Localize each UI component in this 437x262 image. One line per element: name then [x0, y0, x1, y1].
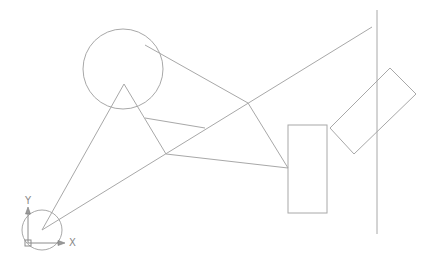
drawing-canvas[interactable]: Y X	[0, 0, 437, 262]
long-diagonal-line[interactable]	[42, 27, 372, 230]
rotated-rectangle[interactable]	[330, 68, 416, 154]
short-connector-line[interactable]	[145, 118, 205, 128]
triangle-right-edge[interactable]	[124, 84, 166, 154]
drawing-geometry[interactable]	[22, 10, 416, 250]
ucs-y-arrow-icon	[26, 207, 31, 214]
tangent-line[interactable]	[145, 45, 248, 103]
vertex-to-rectangle-line[interactable]	[248, 103, 288, 168]
ucs-x-arrow-icon	[58, 241, 65, 246]
large-circle[interactable]	[83, 29, 163, 109]
lower-connector-line[interactable]	[166, 154, 288, 168]
ucs-x-label: X	[69, 238, 76, 248]
rectangle[interactable]	[288, 125, 327, 213]
triangle-left-edge[interactable]	[42, 84, 124, 230]
ucs-y-label: Y	[25, 196, 31, 206]
